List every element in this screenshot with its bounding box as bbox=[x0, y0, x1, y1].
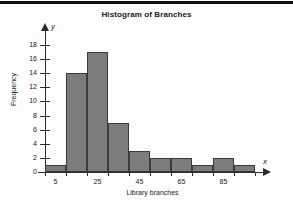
y-tick-mark bbox=[40, 45, 50, 46]
x-tick-mark bbox=[171, 172, 172, 176]
y-axis-arrow-icon bbox=[41, 23, 49, 31]
y-tick-mark bbox=[40, 87, 50, 88]
y-tick-mark bbox=[40, 73, 50, 74]
y-tick-label: 10 bbox=[21, 97, 37, 104]
y-tick-label: 8 bbox=[21, 112, 37, 119]
x-tick-mark bbox=[129, 172, 130, 176]
y-tick-label: 12 bbox=[21, 83, 37, 90]
chart-title: Histogram of Branches bbox=[0, 10, 293, 19]
x-tick-mark bbox=[66, 172, 67, 176]
y-axis-letter: y bbox=[51, 22, 55, 31]
x-tick-label: 5 bbox=[46, 178, 66, 185]
x-tick-label: 85 bbox=[214, 178, 234, 185]
x-tick-mark bbox=[234, 172, 235, 176]
x-tick-mark bbox=[87, 172, 88, 176]
y-tick-label: 18 bbox=[21, 41, 37, 48]
y-tick-mark bbox=[40, 59, 50, 60]
x-tick-label: 25 bbox=[88, 178, 108, 185]
y-tick-label: 14 bbox=[21, 69, 37, 76]
x-tick-mark bbox=[108, 172, 109, 176]
top-rule-divider bbox=[0, 1, 293, 4]
histogram-bar bbox=[66, 73, 87, 172]
y-tick-mark bbox=[40, 116, 50, 117]
y-tick-label: 2 bbox=[21, 154, 37, 161]
histogram-bar bbox=[129, 151, 150, 172]
x-tick-label: 65 bbox=[172, 178, 192, 185]
x-tick-mark bbox=[213, 172, 214, 176]
y-tick-label: 0 bbox=[21, 168, 37, 175]
x-tick-mark bbox=[255, 172, 256, 176]
histogram-bar bbox=[150, 158, 171, 172]
x-tick-label: 45 bbox=[130, 178, 150, 185]
histogram-bar bbox=[192, 165, 213, 172]
x-axis-arrow-icon bbox=[263, 168, 271, 176]
histogram-bar bbox=[213, 158, 234, 172]
y-axis-title: Frequency bbox=[10, 60, 17, 120]
x-tick-mark bbox=[45, 172, 46, 176]
y-tick-label: 16 bbox=[21, 55, 37, 62]
y-tick-mark bbox=[40, 144, 50, 145]
x-tick-mark bbox=[192, 172, 193, 176]
x-axis-letter: x bbox=[263, 157, 267, 166]
y-tick-mark bbox=[40, 130, 50, 131]
histogram-bar bbox=[108, 123, 129, 172]
x-axis-title: Library branches bbox=[45, 189, 260, 196]
histogram-bar bbox=[234, 165, 255, 172]
y-tick-label: 4 bbox=[21, 140, 37, 147]
histogram-bar bbox=[45, 165, 66, 172]
histogram-bar bbox=[87, 52, 108, 172]
y-tick-mark bbox=[40, 101, 50, 102]
histogram-bar bbox=[171, 158, 192, 172]
histogram-figure: Histogram of Branches y x 02468101214161… bbox=[0, 0, 293, 221]
y-tick-mark bbox=[40, 158, 50, 159]
x-axis-line bbox=[38, 172, 264, 173]
y-tick-label: 6 bbox=[21, 126, 37, 133]
x-tick-mark bbox=[150, 172, 151, 176]
